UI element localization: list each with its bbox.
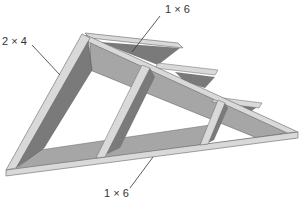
- truss-diagram: [0, 0, 305, 207]
- label-left: 2 × 4: [2, 35, 27, 47]
- label-bottom: 1 × 6: [104, 187, 129, 199]
- leader-bottom: [130, 157, 153, 188]
- label-top: 1 × 6: [165, 3, 190, 15]
- leader-left: [32, 45, 60, 75]
